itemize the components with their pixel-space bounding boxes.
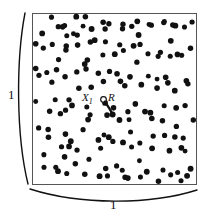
scatter-point [165, 80, 171, 86]
scatter-point [148, 110, 154, 116]
scatter-point [75, 42, 81, 48]
scatter-point [191, 117, 196, 122]
scatter-point [100, 52, 105, 57]
scatter-point [142, 109, 148, 115]
scatter-point [88, 112, 93, 117]
scatter-point [103, 166, 109, 172]
scatter-point [120, 168, 125, 173]
scatter-point [149, 116, 155, 122]
scatter-point [54, 67, 60, 73]
scatter-point [41, 165, 46, 170]
scatter-point [129, 24, 134, 29]
scatter-point [118, 79, 124, 85]
scatter-point [50, 42, 55, 47]
scatter-point [74, 147, 79, 152]
scatter-point [146, 74, 151, 79]
scatter-point [160, 118, 166, 124]
scatter-point [161, 20, 166, 25]
scatter-point [137, 141, 142, 146]
scatter-point [58, 111, 63, 116]
scatter-point [46, 134, 52, 140]
scatter-point [149, 23, 154, 28]
scatter-point [63, 131, 69, 137]
scatter-point [127, 117, 132, 122]
scatter-point [64, 33, 69, 38]
scatter-point [114, 71, 120, 77]
scatter-point [36, 125, 41, 130]
scatter-point [75, 32, 80, 37]
scatter-point [156, 54, 161, 59]
scatter-point [185, 81, 190, 86]
scatter-point [134, 60, 139, 65]
scatter-point [188, 46, 194, 52]
scatter-point [88, 85, 94, 91]
scatter-point [66, 144, 72, 150]
scatter-point [44, 70, 49, 75]
scatter-point [188, 166, 194, 172]
scatter-point [184, 173, 190, 179]
scatter-point [120, 22, 125, 27]
scatter-point [125, 109, 130, 114]
scatter-point [162, 133, 167, 138]
scatter-point [137, 42, 142, 47]
scatter-point [103, 39, 108, 44]
left-dimension-label: 1 [8, 88, 15, 101]
scatter-point [172, 88, 178, 94]
scatter-point [120, 139, 126, 145]
bottom-dimension-label: 1 [110, 198, 117, 211]
scatter-point [68, 138, 74, 144]
scatter-point [83, 14, 89, 20]
scatter-point [111, 105, 117, 111]
scatter-point [155, 77, 160, 82]
radius-arc [105, 102, 112, 113]
scatter-point [112, 51, 118, 57]
scatter-point [100, 19, 106, 25]
scatter-point [122, 83, 128, 89]
scatter-point [105, 173, 110, 178]
scatter-point [149, 145, 155, 151]
scatter-point [110, 139, 115, 144]
scatter-point [45, 127, 50, 132]
scatter-point [160, 168, 165, 173]
scatter-point [151, 133, 156, 138]
scatter-point [82, 172, 88, 178]
scatter-point [144, 169, 150, 175]
scatter-point [64, 171, 69, 176]
scatter-point [145, 51, 150, 56]
scatter-point [85, 57, 91, 63]
scatter-point [106, 21, 111, 26]
scatter-point [182, 103, 187, 108]
scatter-point [101, 79, 106, 84]
scatter-point [56, 57, 61, 62]
scatter-point [80, 127, 85, 132]
x1-subscript: 1 [89, 97, 93, 106]
left-dimension-arc [19, 13, 28, 184]
scatter-point [172, 23, 178, 29]
scatter-point [168, 38, 174, 44]
scatter-point [97, 173, 103, 179]
scatter-point [62, 23, 67, 28]
scatter-point [131, 43, 137, 49]
scatter-point [98, 146, 103, 151]
scatter-point [49, 80, 54, 85]
radius-annotation-label: R [108, 92, 115, 103]
scatter-point [59, 144, 64, 149]
scatter-point [125, 175, 131, 181]
scatter-point [168, 172, 173, 177]
scatter-point [96, 137, 102, 143]
scatter-point [92, 37, 98, 43]
scatter-point [66, 97, 71, 102]
scatter-point [133, 101, 139, 107]
scatter-point [137, 158, 142, 163]
scatter-point [179, 178, 184, 183]
scatter-point [175, 170, 180, 175]
scatter-point [86, 157, 91, 162]
scatter-point [36, 73, 41, 78]
scatter-point [173, 105, 179, 111]
scatter-point [89, 26, 95, 32]
scatter-point [117, 42, 122, 47]
scatter-point [179, 53, 184, 58]
scatter-point [121, 48, 126, 53]
scatter-point [81, 24, 86, 29]
scatter-point [134, 18, 140, 24]
